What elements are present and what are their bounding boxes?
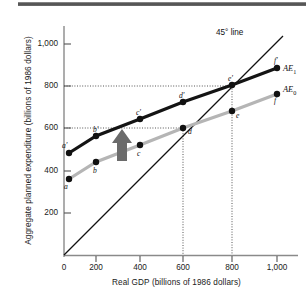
- y-tick-label-800: 800: [28, 81, 58, 90]
- x-tick-label-1000: 1,000: [260, 263, 294, 272]
- point-label-b-prime: b': [93, 125, 98, 134]
- point-label-c: c: [137, 149, 140, 158]
- series-label-ae0-text: AE: [283, 85, 293, 94]
- point-label-a-prime: a': [62, 141, 67, 150]
- y-tick-label-600: 600: [28, 123, 58, 132]
- data-point-f-prime: [274, 65, 280, 71]
- x-tick-label-0: 0: [47, 263, 81, 272]
- x-tick-label-200: 200: [79, 263, 113, 272]
- x-tick-label-600: 600: [166, 263, 200, 272]
- series-label-ae1: AE1: [283, 64, 296, 75]
- series-line-ae1: [69, 68, 277, 153]
- y-tick-label-400: 400: [28, 166, 58, 175]
- series-label-ae1-sub: 1: [293, 68, 296, 75]
- point-label-b: b: [93, 166, 97, 175]
- series-label-ae0-sub: 0: [293, 89, 296, 96]
- x-tick-label-400: 400: [123, 263, 157, 272]
- series-label-ae1-text: AE: [283, 64, 293, 73]
- point-label-f-prime: f': [274, 56, 278, 65]
- data-point-b: [93, 159, 99, 165]
- x-tick-label-800: 800: [215, 263, 249, 272]
- data-point-d: [180, 125, 186, 131]
- y-tick-label-1000: 1,000: [28, 39, 58, 48]
- y-axis-title: Aggregate planned expenditure (billions …: [24, 25, 33, 257]
- point-label-d-prime: d': [179, 91, 184, 100]
- data-point-e: [229, 108, 235, 114]
- x-axis-title: Real GDP (billions of 1986 dollars): [112, 278, 241, 287]
- series-label-ae0: AE0: [283, 85, 296, 96]
- point-label-e-prime: e': [228, 74, 233, 83]
- point-label-a: a: [64, 182, 68, 191]
- point-label-e: e: [236, 111, 239, 120]
- point-label-f: f: [274, 96, 276, 105]
- data-point-c: [137, 142, 143, 148]
- forty-five-degree-line: [64, 36, 283, 255]
- forty-five-degree-line-label: 45° line: [216, 28, 243, 37]
- point-label-d: d: [188, 127, 192, 136]
- y-tick-label-200: 200: [28, 208, 58, 217]
- point-label-c-prime: c': [136, 108, 141, 117]
- x-axis-ticks: [96, 256, 277, 262]
- figure-container: Aggregate planned expenditure (billions …: [0, 0, 306, 298]
- data-point-a-prime: [66, 150, 72, 156]
